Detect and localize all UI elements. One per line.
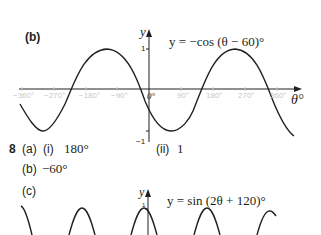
y-axis-arrow-icon [146, 29, 152, 37]
y-tick-neg1: −1 [136, 137, 145, 146]
question-number: 8 [9, 142, 16, 156]
y-axis-label: y [140, 24, 146, 40]
x-tick-neg270: −270° [44, 91, 65, 100]
x-tick-180: 180° [206, 91, 223, 100]
part-a-label: (a) [22, 142, 37, 156]
x-tick-360: 360° [270, 91, 287, 100]
part-a-i-label: (i) [43, 142, 54, 156]
y-axis-c-label: y [139, 185, 144, 200]
y-tick-1: 1 [141, 44, 145, 53]
x-tick-270: 270° [238, 91, 255, 100]
part-a-ii-value: 1 [177, 141, 184, 157]
graph-b [0, 0, 321, 235]
equation-b: y = −cos (θ − 60)° [169, 34, 264, 50]
part-a-i-value: 180° [64, 141, 89, 157]
x-tick-neg180: −180° [79, 91, 100, 100]
y-axis-c-arrow-icon [145, 189, 151, 197]
x-tick-90: 90° [177, 91, 189, 100]
x-tick-neg90: −90° [111, 91, 128, 100]
part-b-answer-value: −60° [42, 161, 68, 177]
x-tick-0: 0° [147, 91, 155, 101]
part-b-label: (b) [25, 30, 40, 44]
x-axis-label: θ° [291, 92, 303, 108]
part-a-ii-label: (ii) [156, 142, 169, 156]
x-tick-neg360: −360° [13, 91, 34, 100]
part-c-label: (c) [22, 184, 36, 198]
y-tick-c-1: 1 [142, 202, 145, 208]
equation-c: y = sin (2θ + 120)° [167, 193, 266, 209]
part-b-answer-label: (b) [22, 162, 37, 176]
